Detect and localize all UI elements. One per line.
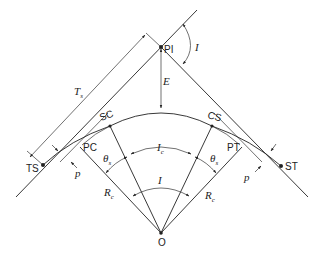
theta-s-right-label: θs — [210, 152, 218, 167]
st-label: ST — [285, 161, 298, 172]
rc-right-label: Rc — [204, 189, 216, 204]
st-point — [279, 164, 283, 168]
cs-point — [210, 124, 213, 127]
ic-label: Ic — [156, 141, 165, 156]
central-angle-label: I — [157, 174, 163, 186]
ts-dim-label: Ts — [74, 85, 83, 100]
pt-label: PT — [227, 142, 240, 153]
central-angle-arc — [133, 188, 189, 196]
circular-arc — [110, 113, 212, 126]
pi-label: PI — [164, 44, 173, 55]
ts-point — [41, 163, 45, 167]
deflection-angle-arc — [183, 24, 191, 64]
center-point — [159, 231, 163, 235]
e-label: E — [162, 75, 170, 87]
cs-label: CS — [206, 109, 223, 123]
o-label: O — [158, 237, 166, 248]
curve — [43, 113, 281, 166]
theta-s-left-label: θs — [103, 152, 111, 167]
spiral-curve-diagram: PI TS ST SC CS PC PT O Ts E I Ic I θs θs… — [0, 0, 322, 257]
p-right-label: p — [243, 171, 250, 183]
deflection-angle-label: I — [194, 41, 200, 53]
pi-point — [159, 45, 163, 49]
p-left-label: p — [74, 167, 81, 179]
ts-label: TS — [26, 163, 39, 174]
tangent-lines — [16, 10, 308, 197]
pc-label: PC — [83, 142, 97, 153]
sc-point — [108, 124, 111, 127]
back-tangent-line — [16, 10, 197, 197]
rc-left-label: Rc — [103, 186, 115, 201]
forward-tangent-line — [161, 47, 308, 197]
